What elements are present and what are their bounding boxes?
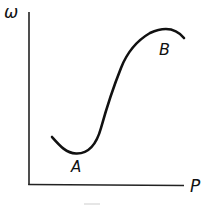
diagram-canvas: ω P A B <box>0 0 206 208</box>
point-a-label: A <box>70 158 81 176</box>
y-axis-label: ω <box>4 2 18 22</box>
point-b-label: B <box>159 40 170 59</box>
x-axis <box>28 185 184 186</box>
caption-artifact <box>84 203 100 205</box>
x-axis-label: P <box>190 176 201 196</box>
